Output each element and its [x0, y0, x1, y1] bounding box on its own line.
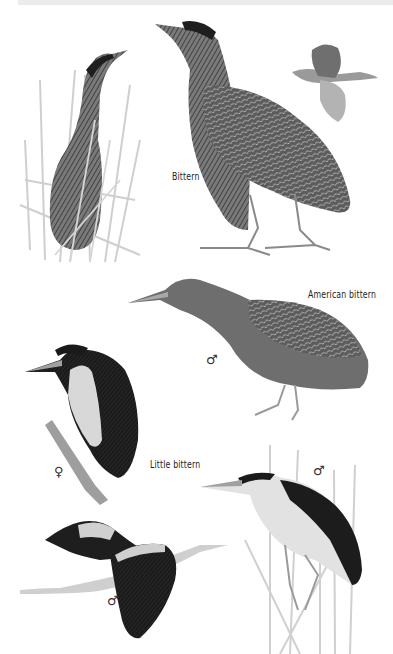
male-symbol-little-bittern-perched: ♂	[313, 464, 325, 477]
little-bittern-female-figure	[25, 344, 138, 505]
male-symbol-american-bittern: ♂	[206, 353, 218, 366]
label-american-bittern: American bittern	[308, 289, 376, 300]
label-little-bittern: Little bittern	[150, 459, 200, 470]
bittern-flight-figure	[292, 44, 378, 122]
little-bittern-male-figure	[200, 445, 362, 654]
male-symbol-little-bittern-flight: ♂	[107, 594, 119, 607]
label-bittern: Bittern	[172, 171, 200, 182]
little-bittern-flight-figure	[20, 521, 228, 638]
female-symbol-little-bittern: ♀	[54, 465, 64, 478]
bittern-flight-lower-wing	[320, 80, 346, 122]
bittern-in-reeds-figure	[20, 50, 140, 262]
american-bittern-legs	[255, 385, 298, 420]
illustration-plate	[0, 0, 393, 654]
